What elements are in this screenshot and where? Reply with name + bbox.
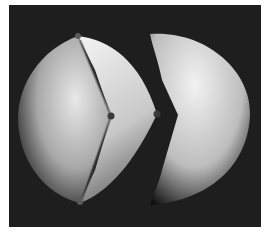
crease-vertex-marker — [108, 113, 115, 120]
sphere-render — [0, 0, 265, 233]
right-sphere-piece — [150, 34, 250, 205]
top-vertex-marker — [75, 33, 81, 39]
bottom-vertex-marker — [77, 199, 83, 205]
edge-vertex-marker — [154, 111, 161, 118]
